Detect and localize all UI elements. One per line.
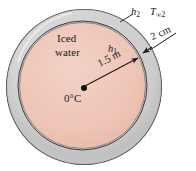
figure-container: Iced water 0°C h1 h2 T∞2 1.5 m 2 cm [0, 0, 196, 171]
tinf-subscript: ∞2 [156, 10, 165, 19]
inner-temperature-label: 0°C [64, 93, 82, 104]
inner-fluid-label-line1: Iced [57, 33, 76, 44]
outer-convection-coefficient-label: h2 [131, 7, 140, 18]
ambient-temperature-label: T∞2 [150, 7, 165, 18]
h2-subscript: 2 [136, 10, 140, 19]
inner-fluid-label-line2: water [55, 47, 80, 58]
